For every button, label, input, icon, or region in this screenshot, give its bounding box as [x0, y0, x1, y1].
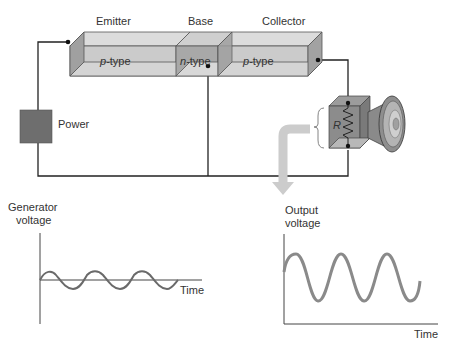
base-label: Base: [188, 15, 213, 27]
output-waveform: [284, 254, 420, 301]
down-arrow-icon: [283, 129, 310, 182]
resistor-label: R: [333, 119, 341, 131]
transistor-diagram: Emitter Base Collector p-type n-type p-t…: [0, 0, 457, 344]
emitter-contact: [66, 40, 71, 45]
emitter-label: Emitter: [96, 15, 131, 27]
input-xlabel: Time: [180, 284, 204, 296]
transistor-block: [66, 32, 322, 76]
collector-region: [218, 32, 322, 76]
arrow-head-icon: [272, 182, 294, 195]
bottom-rail-wire: [38, 143, 340, 176]
input-ylabel-line2: voltage: [16, 214, 51, 226]
collector-type-label: p-type: [242, 55, 274, 67]
emitter-region: [70, 32, 190, 76]
collector-contact: [316, 58, 321, 63]
power-source: [20, 110, 52, 143]
resistor-return-wire: [340, 150, 348, 176]
power-label: Power: [58, 118, 90, 130]
emitter-wire: [38, 42, 66, 110]
speaker-icon: [368, 96, 405, 152]
base-type-label: n-type: [180, 55, 211, 67]
collector-label: Collector: [262, 15, 306, 27]
output-voltage-graph: Output voltage Time: [284, 204, 438, 340]
output-xlabel: Time: [414, 328, 438, 340]
generator-voltage-graph: Generator voltage Time: [8, 201, 204, 324]
bracket: [314, 108, 324, 148]
input-ylabel-line1: Generator: [8, 201, 58, 213]
output-ylabel-line1: Output: [285, 204, 318, 216]
emitter-type-label: p-type: [99, 55, 131, 67]
output-ylabel-line2: voltage: [285, 217, 320, 229]
